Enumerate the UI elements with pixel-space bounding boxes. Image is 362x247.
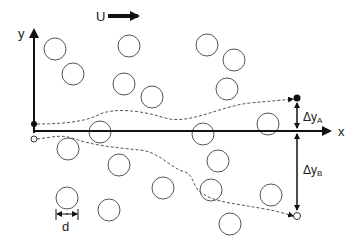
obstacle-circle — [57, 138, 79, 160]
particle-tracking-diagram: y x U ΔyA ΔyB d — [0, 0, 362, 247]
obstacle-circle — [98, 199, 120, 221]
y-axis-label: y — [18, 26, 25, 41]
delta-ya-label: ΔyA — [303, 110, 323, 125]
obstacle-circles — [44, 34, 282, 235]
flow-label: U — [96, 9, 105, 24]
obstacle-circle — [216, 78, 238, 100]
obstacle-circle — [223, 49, 245, 71]
start-point-b — [31, 136, 37, 142]
obstacle-circle — [207, 150, 229, 172]
trajectory-a — [37, 99, 293, 124]
obstacle-circle — [113, 73, 135, 95]
obstacle-circle — [108, 154, 130, 176]
obstacle-circle — [200, 179, 222, 201]
x-axis-label: x — [338, 124, 345, 139]
delta-yb-label: ΔyB — [303, 163, 322, 178]
obstacle-circle — [118, 35, 140, 57]
end-point-a — [294, 95, 301, 102]
obstacle-circle — [192, 123, 214, 145]
obstacle-circle — [260, 184, 282, 206]
end-point-b — [294, 213, 301, 220]
obstacle-circle — [56, 187, 78, 209]
obstacle-circle — [44, 38, 66, 60]
obstacle-circle — [141, 86, 163, 108]
obstacle-circle — [152, 177, 174, 199]
obstacle-circle — [219, 213, 241, 235]
start-point-a — [31, 121, 37, 127]
obstacle-circle — [62, 63, 84, 85]
obstacle-circle — [196, 34, 218, 56]
diameter-label: d — [62, 219, 69, 234]
